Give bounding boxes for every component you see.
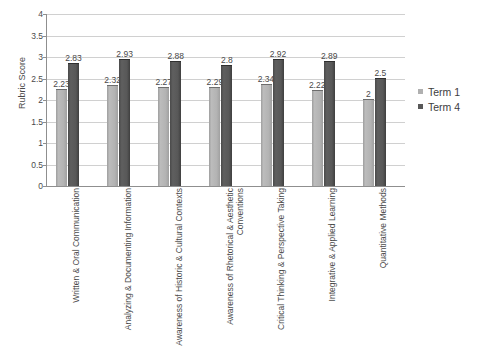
bar-term-1[interactable]: 2.23 <box>56 89 67 186</box>
bar-value-label: 2.88 <box>167 51 184 61</box>
x-axis-label: Integrative & Applied Learning <box>327 188 337 348</box>
x-axis-label: Analyzing & Documenting Information <box>123 188 133 348</box>
bar-term-4[interactable]: 2.88 <box>170 61 181 186</box>
bar-term-4[interactable]: 2.5 <box>375 78 386 187</box>
bar-group: 2.272.88 <box>149 14 200 186</box>
y-axis-tick-label: 2.5 <box>31 74 43 84</box>
bar-group: 2.292.8 <box>200 14 251 186</box>
bar-term-1[interactable]: 2.22 <box>312 90 323 186</box>
y-axis-tick-label: 1.5 <box>31 117 43 127</box>
plot-area: 00.511.522.533.54 2.232.832.322.932.272.… <box>47 14 405 186</box>
x-axis-line <box>46 186 405 187</box>
x-axis-label: Critical Thinking & Perspective Taking <box>276 188 286 348</box>
bar-group: 2.232.83 <box>47 14 98 186</box>
legend-label: Term 1 <box>428 86 460 98</box>
y-axis-tick-mark <box>43 186 47 187</box>
bar-group: 2.222.89 <box>303 14 354 186</box>
bar-term-1[interactable]: 2.27 <box>158 87 169 186</box>
legend-item-term-1[interactable]: Term 1 <box>418 84 460 99</box>
bar-term-1[interactable]: 2.32 <box>107 85 118 186</box>
bar-value-label: 2.83 <box>65 53 82 63</box>
bar-group: 2.342.92 <box>252 14 303 186</box>
bar-term-4[interactable]: 2.8 <box>221 65 232 186</box>
y-axis-tick-label: 3.5 <box>31 31 43 41</box>
bar-term-1[interactable]: 2 <box>363 99 374 186</box>
x-axis-labels: Written & Oral CommunicationAnalyzing & … <box>47 188 405 358</box>
x-axis-label: Written & Oral Communication <box>71 188 81 348</box>
bar-value-label: 2.5 <box>374 68 386 78</box>
legend-label: Term 4 <box>428 101 460 113</box>
bar-value-label: 2.92 <box>270 49 287 59</box>
x-axis-label: Awareness of Historic & Cultural Context… <box>174 188 184 348</box>
bar-chart: Rubric Score 00.511.522.533.54 2.232.832… <box>0 0 481 364</box>
x-axis-label: Awareness of Rhetorical & Aesthetic Conv… <box>225 188 245 348</box>
y-axis-title: Rubric Score <box>17 43 27 123</box>
y-axis-tick-label: 0.5 <box>31 160 43 170</box>
bar-term-4[interactable]: 2.89 <box>324 61 335 186</box>
bar-group: 22.5 <box>354 14 405 186</box>
bar-term-4[interactable]: 2.92 <box>273 59 284 186</box>
legend-swatch-icon <box>418 104 423 109</box>
bar-term-4[interactable]: 2.93 <box>119 59 130 186</box>
x-axis-label: Quantitative Methods <box>378 188 388 348</box>
bar-value-label: 2 <box>366 89 371 99</box>
bar-term-1[interactable]: 2.34 <box>261 84 272 186</box>
legend: Term 1 Term 4 <box>418 84 460 114</box>
bar-term-4[interactable]: 2.83 <box>68 63 79 186</box>
bar-value-label: 2.8 <box>221 55 233 65</box>
bar-value-label: 2.93 <box>116 49 133 59</box>
legend-item-term-4[interactable]: Term 4 <box>418 99 460 114</box>
bar-group: 2.322.93 <box>98 14 149 186</box>
legend-swatch-icon <box>418 89 423 94</box>
bar-term-1[interactable]: 2.29 <box>209 87 220 186</box>
bar-value-label: 2.89 <box>321 51 338 61</box>
chart-title-remnant <box>120 0 320 4</box>
